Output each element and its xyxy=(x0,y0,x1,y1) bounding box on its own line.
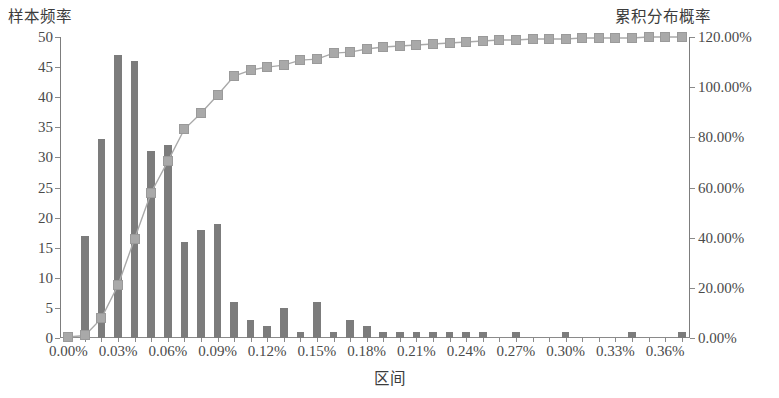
line-marker xyxy=(96,313,106,323)
left-axis-tick-label: 35 xyxy=(38,119,53,136)
line-marker xyxy=(312,54,322,64)
line-marker xyxy=(179,124,189,134)
x-axis-tick-mark xyxy=(599,338,600,342)
left-axis-tick-label: 10 xyxy=(38,269,53,286)
x-axis-tick-mark xyxy=(218,338,219,342)
left-axis-tick-mark xyxy=(55,338,60,339)
line-marker xyxy=(660,32,670,42)
x-axis-tick-label: 0.33% xyxy=(596,343,635,360)
x-axis-tick-mark xyxy=(499,338,500,342)
x-axis-tick-mark xyxy=(433,338,434,342)
right-axis-tick-mark xyxy=(690,37,695,38)
line-marker xyxy=(627,33,637,43)
line-marker xyxy=(229,71,239,81)
line-marker xyxy=(345,47,355,57)
left-axis-tick-label: 20 xyxy=(38,209,53,226)
x-axis-tick-mark xyxy=(466,338,467,342)
x-axis-tick-mark xyxy=(649,338,650,342)
line-marker xyxy=(196,108,206,118)
x-axis-tick-mark xyxy=(682,338,683,342)
x-axis-tick-mark xyxy=(615,338,616,342)
x-axis-tick-label: 0.15% xyxy=(298,343,337,360)
line-marker xyxy=(113,280,123,290)
line-marker xyxy=(246,65,256,75)
x-axis-tick-mark xyxy=(533,338,534,342)
x-axis-tick-mark xyxy=(632,338,633,342)
line-marker xyxy=(544,34,554,44)
line-marker xyxy=(262,62,272,72)
x-axis-tick-mark xyxy=(367,338,368,342)
x-axis-tick-mark xyxy=(184,338,185,342)
right-axis-tick-label: 60.00% xyxy=(698,179,744,196)
right-axis-tick-label: 40.00% xyxy=(698,229,744,246)
line-marker xyxy=(130,234,140,244)
line-marker xyxy=(445,38,455,48)
x-axis-tick-label: 0.21% xyxy=(397,343,436,360)
line-marker xyxy=(594,33,604,43)
x-axis-tick-mark xyxy=(566,338,567,342)
left-axis-tick-label: 50 xyxy=(38,29,53,46)
x-axis-tick-mark xyxy=(251,338,252,342)
x-axis-tick-mark xyxy=(284,338,285,342)
line-marker xyxy=(494,35,504,45)
line-marker xyxy=(395,41,405,51)
line-marker xyxy=(146,188,156,198)
line-marker xyxy=(644,32,654,42)
x-axis-tick-mark xyxy=(300,338,301,342)
line-marker xyxy=(461,37,471,47)
x-axis-tick-mark xyxy=(383,338,384,342)
x-axis-tick-label: 0.03% xyxy=(99,343,138,360)
right-axis-tick-label: 120.00% xyxy=(698,29,752,46)
x-axis-tick-mark xyxy=(516,338,517,342)
x-axis-tick-label: 0.24% xyxy=(447,343,486,360)
right-axis-tick-mark xyxy=(690,188,695,189)
x-axis-tick-label: 0.00% xyxy=(49,343,88,360)
x-axis-tick-mark xyxy=(416,338,417,342)
x-axis-tick-mark xyxy=(483,338,484,342)
x-axis-tick-mark xyxy=(151,338,152,342)
right-axis-tick-mark xyxy=(690,338,695,339)
x-axis-tick-mark xyxy=(400,338,401,342)
x-axis-tick-mark xyxy=(317,338,318,342)
x-axis-tick-mark xyxy=(450,338,451,342)
left-axis-tick-label: 45 xyxy=(38,59,53,76)
right-axis-title: 累积分布概率 xyxy=(615,4,711,26)
line-marker xyxy=(478,36,488,46)
x-axis-tick-mark xyxy=(135,338,136,342)
left-axis-tick-label: 30 xyxy=(38,149,53,166)
line-marker xyxy=(677,32,687,42)
line-marker xyxy=(411,40,421,50)
x-axis-tick-mark xyxy=(582,338,583,342)
pareto-chart: 样本频率 累积分布概率 区间 05101520253035404550 0.00… xyxy=(0,0,779,398)
x-axis-tick-label: 0.30% xyxy=(546,343,585,360)
x-axis-tick-mark xyxy=(101,338,102,342)
line-marker xyxy=(528,34,538,44)
line-marker xyxy=(295,55,305,65)
line-marker xyxy=(362,44,372,54)
x-axis-tick-mark xyxy=(267,338,268,342)
x-axis-tick-label: 0.06% xyxy=(148,343,187,360)
x-axis-tick-mark xyxy=(201,338,202,342)
line-marker xyxy=(213,90,223,100)
line-marker xyxy=(63,332,73,342)
left-axis-tick-label: 40 xyxy=(38,89,53,106)
right-axis-tick-label: 20.00% xyxy=(698,279,744,296)
left-axis-title: 样本频率 xyxy=(8,4,72,26)
line-marker xyxy=(329,48,339,58)
x-axis-tick-mark xyxy=(549,338,550,342)
line-marker xyxy=(610,33,620,43)
right-axis-tick-mark xyxy=(690,288,695,289)
line-marker xyxy=(577,33,587,43)
right-axis-tick-label: 100.00% xyxy=(698,79,752,96)
right-axis-tick-label: 0.00% xyxy=(698,330,737,347)
right-axis-tick-mark xyxy=(690,238,695,239)
right-axis-tick-label: 80.00% xyxy=(698,129,744,146)
x-axis-tick-label: 0.12% xyxy=(248,343,287,360)
x-axis-tick-mark xyxy=(350,338,351,342)
x-axis-tick-label: 0.36% xyxy=(646,343,685,360)
line-marker xyxy=(163,156,173,166)
line-marker xyxy=(561,34,571,44)
x-axis-tick-mark xyxy=(234,338,235,342)
line-marker xyxy=(80,330,90,340)
x-axis-title: 区间 xyxy=(0,366,779,388)
